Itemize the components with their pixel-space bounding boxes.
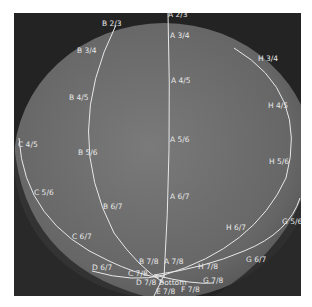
label-h-3-4: H 3/4	[258, 54, 278, 63]
label-a-5-6: A 5/6	[170, 135, 190, 144]
label-b-6-7: B 6/7	[103, 202, 123, 211]
label-h-7-8: H 7/8	[198, 262, 218, 271]
label-c-4-5: C 4/5	[18, 140, 38, 149]
label-g-6-7: G 6/7	[246, 255, 266, 264]
label-c-7-8: C 7/8	[128, 269, 148, 278]
label-h-6-7: H 6/7	[226, 223, 246, 232]
label-b-3-4: B 3/4	[77, 46, 97, 55]
label-a-7-8: A 7/8	[164, 257, 184, 266]
label-h-5-6: H 5/6	[269, 157, 289, 166]
label-d-7-8: D 7/8	[136, 278, 156, 287]
label-b-7-8: B 7/8	[139, 257, 159, 266]
sphere-image: A 2/3 A 3/4 A 4/5 A 5/6 A 6/7 A 7/8 B 2/…	[14, 13, 301, 296]
label-b-4-5: B 4/5	[69, 93, 89, 102]
label-b-5-6: B 5/6	[78, 148, 98, 157]
label-e-7-8: E 7/8	[156, 287, 175, 296]
label-g-5-6: G 5/6	[282, 217, 301, 226]
label-d-6-7: D 6/7	[92, 263, 112, 272]
label-a-6-7: A 6/7	[170, 192, 190, 201]
label-a-2-3: A 2/3	[168, 13, 188, 19]
label-c-6-7: C 6/7	[72, 232, 92, 241]
sphere-graphic: A 2/3 A 3/4 A 4/5 A 5/6 A 6/7 A 7/8 B 2/…	[14, 13, 301, 296]
label-a-4-5: A 4/5	[171, 76, 191, 85]
label-b-2-3: B 2/3	[102, 19, 122, 28]
label-g-7-8: G 7/8	[203, 276, 223, 285]
label-c-5-6: C 5/6	[34, 188, 54, 197]
label-a-3-4: A 3/4	[170, 31, 190, 40]
label-h-4-5: H 4/5	[268, 101, 288, 110]
label-center-bottom: Bottom	[159, 278, 187, 287]
